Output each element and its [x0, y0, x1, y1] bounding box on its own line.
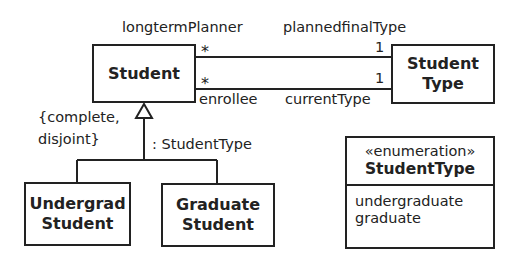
enumeration-stereotype: «enumeration» — [347, 143, 493, 160]
multiplicity-current-source: * — [201, 75, 209, 92]
class-student-type-name-line1: Student — [407, 54, 479, 74]
generalization-arrow-icon — [136, 104, 152, 118]
class-graduate-name-line1: Graduate — [176, 195, 260, 215]
role-planned-final-type: plannedfinalType — [283, 19, 406, 36]
multiplicity-planned-target: 1 — [375, 39, 384, 56]
class-undergrad-student[interactable]: Undergrad Student — [24, 182, 131, 246]
role-enrollee: enrollee — [199, 91, 258, 108]
enumeration-literals: undergraduate graduate — [347, 186, 493, 227]
enumeration-literal: graduate — [355, 210, 493, 227]
generalization-constraint-line1: {complete, — [38, 109, 120, 126]
class-student-name: Student — [108, 64, 180, 84]
multiplicity-current-target: 1 — [375, 70, 384, 87]
enumeration-student-type[interactable]: «enumeration» StudentType undergraduate … — [345, 136, 495, 249]
generalization-powertype: : StudentType — [152, 136, 252, 153]
enumeration-name: StudentType — [347, 160, 493, 179]
generalization-constraint-line2: disjoint} — [38, 131, 100, 148]
class-student-type-name-line2: Type — [422, 74, 464, 94]
role-current-type: currentType — [285, 91, 371, 108]
class-undergrad-name-line2: Student — [42, 214, 114, 234]
enumeration-header: «enumeration» StudentType — [347, 138, 493, 186]
role-longterm-planner: longtermPlanner — [122, 19, 243, 36]
class-student[interactable]: Student — [92, 44, 196, 103]
enumeration-literal: undergraduate — [355, 193, 493, 210]
class-student-type[interactable]: Student Type — [391, 44, 495, 104]
class-graduate-student[interactable]: Graduate Student — [161, 183, 275, 247]
class-undergrad-name-line1: Undergrad — [29, 194, 125, 214]
multiplicity-planned-source: * — [201, 43, 209, 60]
class-graduate-name-line2: Student — [182, 215, 254, 235]
